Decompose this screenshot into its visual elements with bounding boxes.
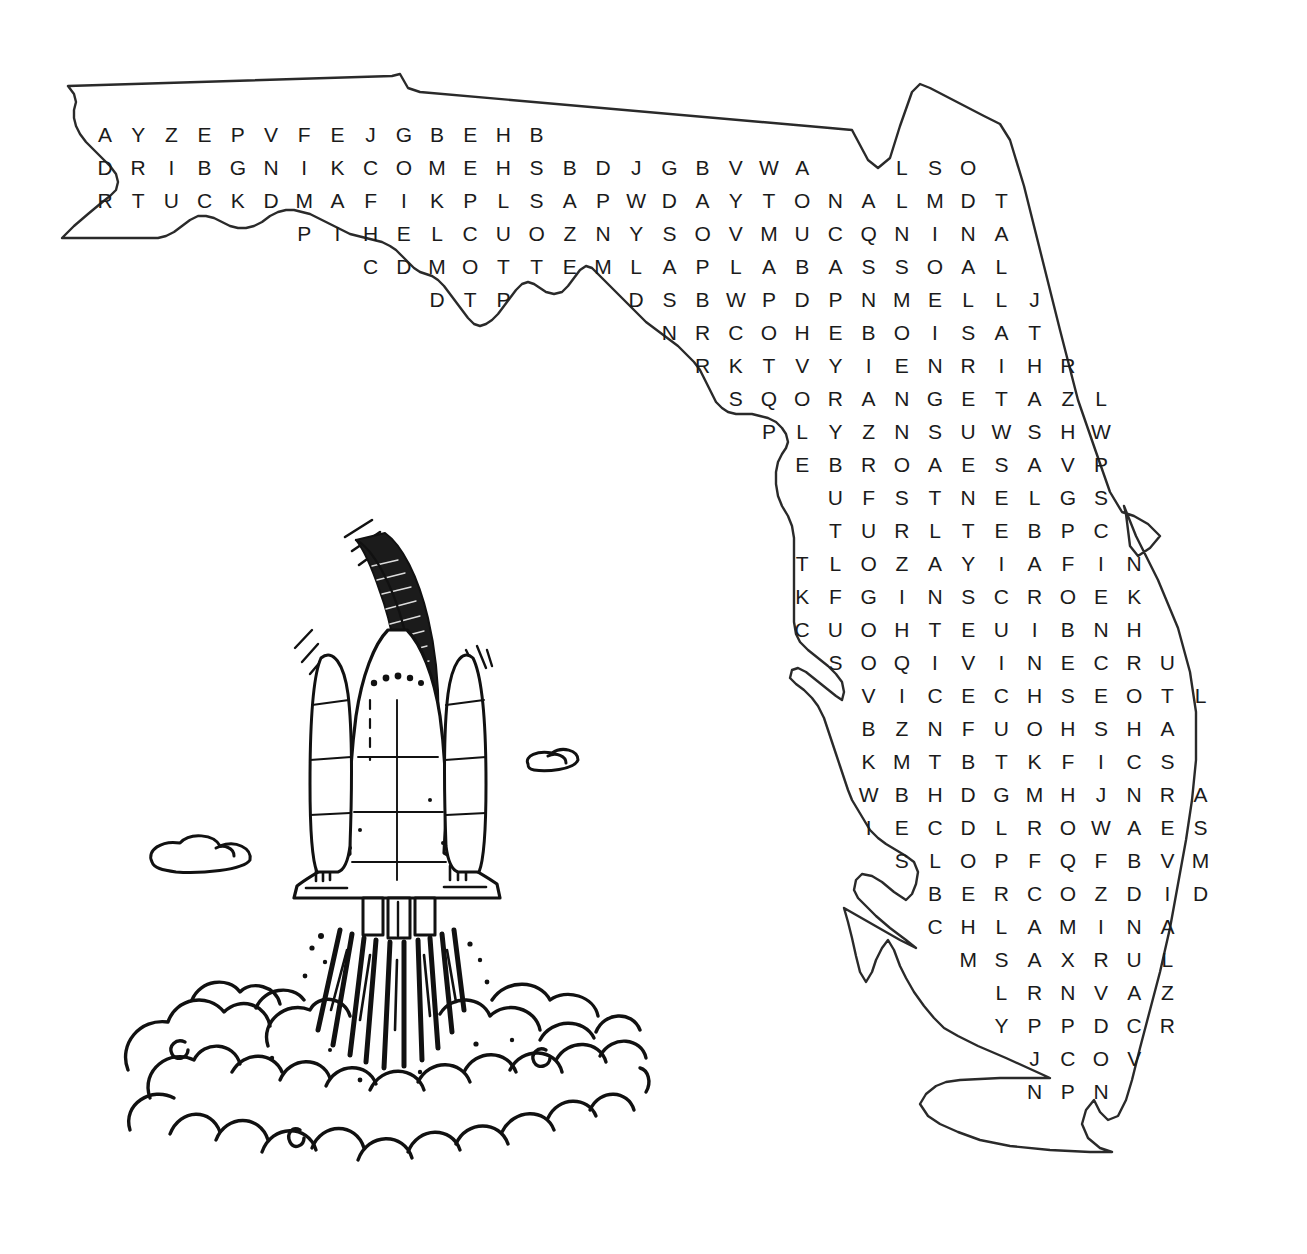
grid-letter: E: [988, 487, 1014, 508]
grid-letter: D: [424, 289, 450, 310]
grid-letter: E: [1154, 817, 1180, 838]
grid-letter: M: [1055, 916, 1081, 937]
grid-letter: A: [822, 256, 848, 277]
grid-letter: W: [988, 421, 1014, 442]
grid-letter: E: [457, 124, 483, 145]
grid-letter: G: [922, 388, 948, 409]
grid-letter: A: [789, 157, 815, 178]
grid-letter: I: [922, 652, 948, 673]
grid-letter: A: [955, 256, 981, 277]
grid-letter: K: [1121, 586, 1147, 607]
grid-letter: E: [955, 388, 981, 409]
grid-letter: P: [291, 223, 317, 244]
grid-letter: S: [1188, 817, 1214, 838]
grid-letter: J: [358, 124, 384, 145]
grid-letter: R: [690, 355, 716, 376]
grid-letter: E: [1055, 652, 1081, 673]
grid-letter: P: [1055, 1015, 1081, 1036]
grid-letter: E: [557, 256, 583, 277]
grid-letter: L: [623, 256, 649, 277]
grid-letter: H: [1055, 421, 1081, 442]
grid-letter: T: [1154, 685, 1180, 706]
grid-letter: S: [1088, 718, 1114, 739]
grid-letter: S: [524, 190, 550, 211]
grid-letter: V: [856, 685, 882, 706]
grid-letter: T: [955, 520, 981, 541]
grid-letter: W: [623, 190, 649, 211]
grid-letter: N: [258, 157, 284, 178]
grid-letter: S: [922, 157, 948, 178]
grid-letter: C: [1088, 652, 1114, 673]
grid-letter: C: [358, 256, 384, 277]
grid-letter: O: [1022, 718, 1048, 739]
grid-letter: Y: [623, 223, 649, 244]
grid-letter: T: [789, 553, 815, 574]
grid-letter: L: [822, 553, 848, 574]
grid-letter: B: [889, 784, 915, 805]
grid-letter: M: [291, 190, 317, 211]
grid-letter: R: [822, 388, 848, 409]
grid-letter: T: [922, 751, 948, 772]
grid-letter: W: [1088, 817, 1114, 838]
grid-letter: R: [1121, 652, 1147, 673]
grid-letter: L: [1022, 487, 1048, 508]
grid-letter: I: [1088, 751, 1114, 772]
grid-letter: E: [889, 817, 915, 838]
grid-letter: H: [955, 916, 981, 937]
grid-letter: S: [1022, 421, 1048, 442]
grid-letter: S: [988, 949, 1014, 970]
grid-letter: P: [490, 289, 516, 310]
grid-letter: A: [656, 256, 682, 277]
grid-letter: N: [1121, 553, 1147, 574]
grid-letter: K: [789, 586, 815, 607]
grid-letter: T: [988, 190, 1014, 211]
grid-letter: T: [756, 355, 782, 376]
grid-letter: L: [922, 850, 948, 871]
grid-letter: R: [1154, 1015, 1180, 1036]
grid-letter: F: [1088, 850, 1114, 871]
grid-letter: H: [789, 322, 815, 343]
grid-letter: C: [358, 157, 384, 178]
grid-letter: F: [291, 124, 317, 145]
grid-letter: D: [258, 190, 284, 211]
grid-letter: C: [789, 619, 815, 640]
grid-letter: K: [856, 751, 882, 772]
grid-letter: S: [822, 652, 848, 673]
grid-letter: P: [225, 124, 251, 145]
grid-letter: B: [822, 454, 848, 475]
grid-letter: A: [324, 190, 350, 211]
grid-letter: R: [1088, 949, 1114, 970]
grid-letter: L: [889, 190, 915, 211]
grid-letter: R: [1055, 355, 1081, 376]
grid-letter: V: [723, 223, 749, 244]
grid-letter: W: [856, 784, 882, 805]
grid-letter: L: [490, 190, 516, 211]
grid-letter: E: [822, 322, 848, 343]
grid-letter: I: [391, 190, 417, 211]
grid-letter: D: [391, 256, 417, 277]
grid-letter: Z: [158, 124, 184, 145]
grid-letter: J: [1088, 784, 1114, 805]
grid-letter: R: [1022, 817, 1048, 838]
grid-letter: N: [856, 289, 882, 310]
grid-letter: I: [922, 223, 948, 244]
grid-letter: S: [723, 388, 749, 409]
grid-letter: F: [1055, 553, 1081, 574]
grid-letter: O: [856, 553, 882, 574]
grid-letter: Q: [856, 223, 882, 244]
grid-letter: A: [1022, 916, 1048, 937]
grid-letter: M: [1188, 850, 1214, 871]
grid-letter: I: [856, 817, 882, 838]
grid-letter: M: [922, 190, 948, 211]
grid-letter: O: [391, 157, 417, 178]
grid-letter: U: [490, 223, 516, 244]
grid-letter: N: [656, 322, 682, 343]
grid-letter: R: [1022, 982, 1048, 1003]
grid-letter: C: [723, 322, 749, 343]
grid-letter: A: [756, 256, 782, 277]
grid-letter: D: [955, 190, 981, 211]
grid-letter: B: [856, 718, 882, 739]
grid-letter: U: [955, 421, 981, 442]
grid-letter: E: [1088, 685, 1114, 706]
grid-letter: O: [1055, 883, 1081, 904]
